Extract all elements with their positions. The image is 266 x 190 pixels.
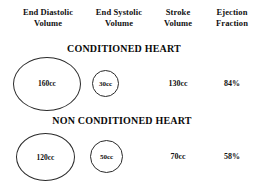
section-title-non-conditioned-heart: NON CONDITIONED HEART (22, 115, 222, 127)
circle-label-end-diastolic-volume-conditioned: 160cc (14, 79, 80, 88)
column-header-line1: Stroke (146, 7, 210, 18)
column-header-line2: Fraction (202, 18, 262, 29)
column-header-line2: Volume (146, 18, 210, 29)
value-ejection-fraction-conditioned: 84% (202, 79, 262, 89)
ejection-fraction-diagram: End Diastolic Volume End Systolic Volume… (0, 0, 266, 190)
value-stroke-volume-non-conditioned: 70cc (146, 152, 210, 162)
column-header-line1: Ejection (202, 7, 262, 18)
circle-end-diastolic-volume-non-conditioned: 120cc (16, 133, 75, 181)
circle-label-end-systolic-volume-non-conditioned: 50cc (91, 153, 122, 162)
value-ejection-fraction-non-conditioned: 58% (202, 152, 262, 162)
value-stroke-volume-conditioned: 130cc (146, 79, 210, 89)
column-header-stroke-volume: Stroke Volume (146, 7, 210, 28)
circle-label-end-diastolic-volume-non-conditioned: 120cc (17, 153, 74, 162)
circle-end-diastolic-volume-conditioned: 160cc (13, 57, 81, 111)
section-title-conditioned-heart: CONDITIONED HEART (24, 43, 224, 55)
circle-label-end-systolic-volume-conditioned: 30cc (93, 80, 118, 89)
circle-end-systolic-volume-conditioned: 30cc (92, 70, 119, 97)
column-header-ejection-fraction: Ejection Fraction (202, 7, 262, 28)
circle-end-systolic-volume-non-conditioned: 50cc (90, 140, 123, 173)
